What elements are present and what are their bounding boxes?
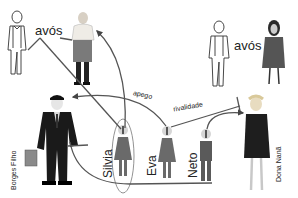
silvia-to-grandmother-arrow — [97, 31, 125, 128]
grandmother-left-figure — [72, 12, 94, 85]
grandfather-to-avos-line — [28, 38, 40, 50]
borges-filho-label: Borges Filho — [10, 151, 17, 190]
eva-figure — [158, 126, 176, 178]
avos-left-label: avós — [35, 24, 62, 37]
borges-filho-figure — [25, 95, 78, 185]
family-diagram: avós avós apego rivalidade Silvia Eva Ne… — [0, 0, 298, 198]
dona-nana-label: Dona Nanã — [275, 147, 282, 182]
avos-right-label: avós — [234, 39, 261, 52]
neto-label: Neto — [187, 153, 199, 178]
eva-label: Eva — [146, 155, 158, 176]
rivalidade-block — [237, 97, 240, 111]
silvia-figure — [112, 119, 134, 193]
grandmother-right-figure — [262, 20, 285, 84]
dona-nana-figure — [244, 96, 270, 190]
neto-figure — [200, 129, 212, 181]
avos-to-grandmother-line — [60, 38, 72, 40]
grandfather-right-figure — [209, 21, 229, 86]
grandfather-left-figure — [8, 11, 26, 74]
silvia-label: Silvia — [102, 149, 114, 178]
